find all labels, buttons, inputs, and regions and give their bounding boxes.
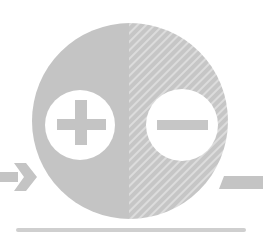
polarity-diagram bbox=[0, 0, 263, 238]
baseline bbox=[16, 228, 246, 232]
plus-icon bbox=[45, 90, 115, 160]
input-arrow-icon bbox=[0, 163, 37, 191]
main-circle bbox=[0, 0, 263, 238]
minus-icon bbox=[146, 89, 218, 161]
output-bar bbox=[219, 176, 263, 189]
